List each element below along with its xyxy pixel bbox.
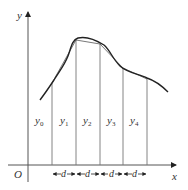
trapezoid-chords: [52, 40, 147, 83]
y-axis-label: y: [16, 9, 22, 21]
interval-label-2: d: [85, 168, 91, 179]
interval-label-1: d: [61, 168, 67, 179]
ordinate-label-y0: y0: [34, 114, 44, 128]
x-axis-label: x: [171, 170, 177, 182]
ordinate-label-y1: y1: [59, 114, 69, 128]
ordinate-label-y3: y3: [106, 114, 116, 128]
interval-label-4: d: [132, 168, 138, 179]
function-curve: [40, 37, 168, 100]
origin-label: O: [14, 168, 22, 180]
interval-label-3: d: [109, 168, 115, 179]
ordinate-label-y2: y2: [82, 114, 92, 128]
interval-labels: d d d d: [61, 168, 138, 179]
trapezoid-rule-diagram: y x O y0 y1 y2 y3 y4 d d d d: [0, 0, 188, 190]
ordinate-label-y4: y4: [129, 114, 139, 128]
